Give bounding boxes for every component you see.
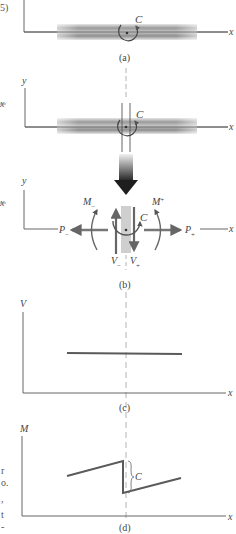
jump-label: C (135, 471, 142, 482)
x-axis-label: x (228, 121, 234, 132)
panel-c: V x (c) (20, 298, 233, 414)
panel-b: x y x C P− P+ M− M+ V− V+ (b) (0, 175, 234, 291)
svg-text:o.: o. (1, 477, 9, 488)
edge-x-fragment: x (0, 197, 5, 208)
caption-b: (b) (119, 279, 131, 291)
shear-curve (67, 353, 182, 354)
x-axis-label: x (227, 387, 233, 398)
y-axis-label: y (21, 75, 27, 86)
center-point (125, 126, 128, 129)
svg-text:-: - (1, 521, 4, 532)
axial-left-label: P− (58, 224, 69, 239)
edge-text-fragment: 5) (0, 2, 8, 14)
x-axis-label: x (228, 223, 234, 234)
diagram-canvas: 5) C x (a) x y C x x (0, 0, 236, 534)
shear-right-label: V+ (130, 255, 140, 270)
edge-x-fragment: x (0, 98, 5, 109)
moment-right-label: M+ (151, 196, 164, 207)
y-axis-label: V (20, 298, 28, 309)
jump-brace-icon (128, 461, 134, 493)
couple-label: C (140, 211, 148, 223)
left-margin-text: r o. , t - (1, 465, 9, 532)
panel-a: C x (a) (24, 0, 234, 64)
caption-a: (a) (119, 52, 130, 64)
center-point (125, 229, 128, 232)
svg-text:t: t (1, 509, 4, 520)
panel-a2: x y C x (0, 75, 234, 152)
axial-right-label: P+ (184, 224, 195, 239)
y-axis-label: M (19, 423, 29, 434)
couple-label: C (136, 108, 144, 120)
x-axis-label: x (227, 511, 233, 522)
moment-curve (67, 461, 181, 493)
y-axis-label: y (21, 175, 27, 186)
moment-left-label: M− (82, 196, 95, 211)
caption-c: (c) (119, 402, 130, 414)
caption-d: (d) (119, 522, 131, 534)
couple-label: C (135, 13, 143, 25)
svg-text:r: r (1, 465, 5, 476)
transition-arrow-icon (114, 154, 138, 195)
x-axis-label: x (228, 26, 234, 37)
svg-text:,: , (1, 493, 4, 504)
center-point (126, 32, 129, 35)
shear-left-label: V− (111, 255, 121, 270)
